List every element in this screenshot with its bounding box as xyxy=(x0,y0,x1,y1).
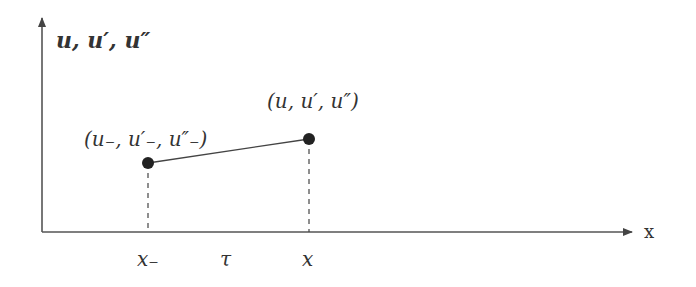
point-left xyxy=(142,157,154,169)
diagram-canvas: u, u′, u″ x (u₋, u′₋, u″₋) (u, u′, u″) x… xyxy=(0,0,696,287)
tick-label-tau: τ xyxy=(220,247,232,271)
point-left-label: (u₋, u′₋, u″₋) xyxy=(84,127,207,151)
tick-label-x: x xyxy=(302,247,313,271)
point-right xyxy=(303,133,315,145)
y-axis-label: u, u′, u″ xyxy=(56,27,150,53)
point-right-label: (u, u′, u″) xyxy=(267,89,359,113)
tick-label-x-minus: x₋ xyxy=(137,247,159,271)
x-axis-label: x xyxy=(644,221,654,242)
